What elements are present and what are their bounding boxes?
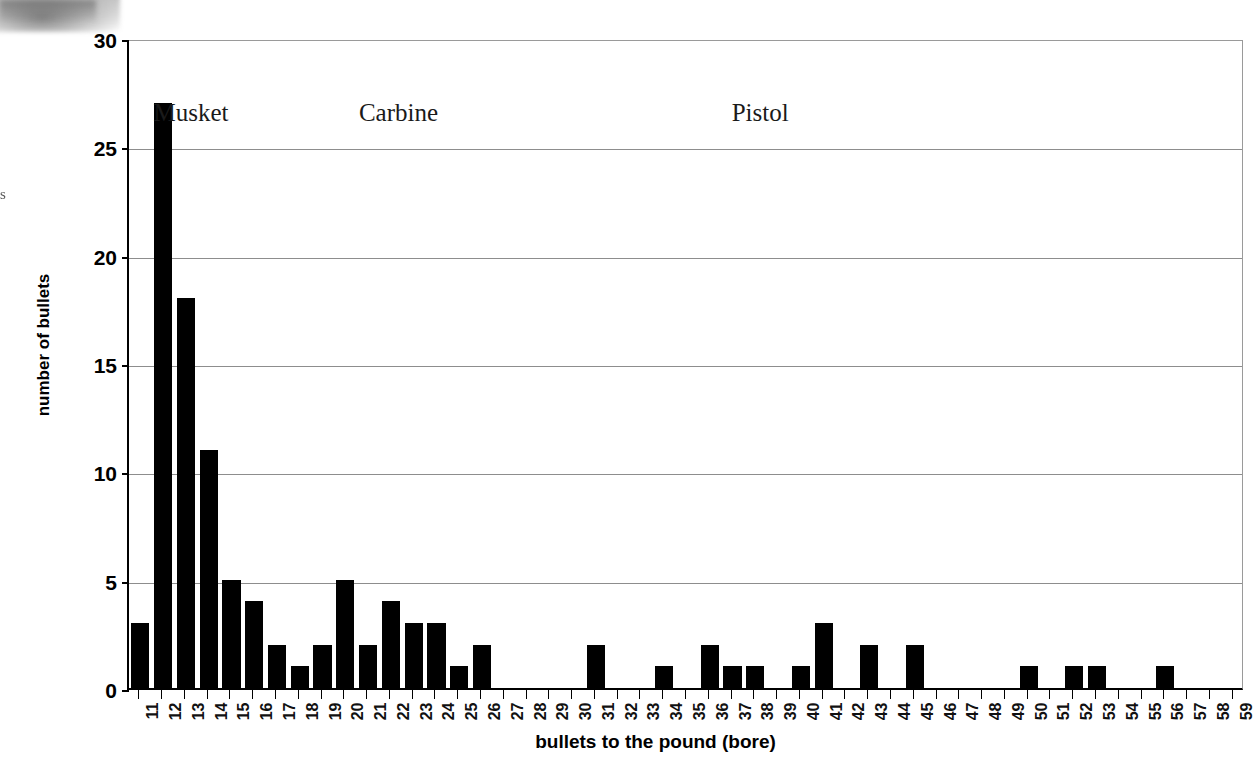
bar [245, 601, 263, 688]
x-axis-title-text: bullets to the pound (bore) [535, 731, 776, 753]
bar [291, 666, 309, 688]
x-tick-mark [229, 690, 230, 699]
x-tick-mark [685, 690, 686, 699]
y-axis-title: number of bullets [34, 274, 54, 417]
x-tick-label: 23 [418, 703, 436, 720]
x-tick-label: 55 [1147, 703, 1165, 720]
x-tick-label: 14 [213, 703, 231, 720]
bar [450, 666, 468, 688]
x-tick-label: 57 [1192, 703, 1210, 720]
x-tick-mark [389, 690, 390, 699]
x-tick-label: 38 [759, 703, 777, 720]
x-tick-label: 41 [828, 703, 846, 720]
bars-container [129, 41, 1242, 688]
bar [131, 623, 149, 688]
bar [1088, 666, 1106, 688]
x-tick-mark [434, 690, 435, 699]
x-tick-label: 28 [532, 703, 550, 720]
x-tick-mark [526, 690, 527, 699]
x-tick-label: 27 [509, 703, 527, 720]
x-tick-label: 58 [1215, 703, 1233, 720]
x-tick-label: 24 [440, 703, 458, 720]
x-tick-label: 32 [623, 703, 641, 720]
x-tick-mark [1004, 690, 1005, 699]
x-tick-mark [298, 690, 299, 699]
x-tick-mark [571, 690, 572, 699]
bar [701, 645, 719, 688]
x-tick-label: 29 [554, 703, 572, 720]
x-tick-mark [457, 690, 458, 699]
bar [200, 450, 218, 688]
x-tick-label: 59 [1238, 703, 1255, 720]
y-tick-label: 25 [94, 137, 117, 161]
x-tick-label: 22 [395, 703, 413, 720]
x-tick-mark [1232, 690, 1233, 699]
x-tick-label: 46 [942, 703, 960, 720]
x-tick-mark [1141, 690, 1142, 699]
x-tick-label: 13 [190, 703, 208, 720]
x-tick-mark [890, 690, 891, 699]
x-tick-mark [981, 690, 982, 699]
x-tick-label: 40 [805, 703, 823, 720]
x-tick-label: 25 [463, 703, 481, 720]
x-tick-label: 18 [304, 703, 322, 720]
category-annotation: Pistol [732, 99, 789, 127]
bar [587, 645, 605, 688]
x-tick-label: 34 [668, 703, 686, 720]
bar [860, 645, 878, 688]
category-annotation: Musket [154, 99, 229, 127]
bar [359, 645, 377, 688]
x-tick-mark [617, 690, 618, 699]
bar [1156, 666, 1174, 688]
x-axis-title: bullets to the pound (bore) [0, 731, 1255, 753]
x-tick-mark [1118, 690, 1119, 699]
y-tick-mark [122, 365, 129, 367]
x-tick-label: 16 [258, 703, 276, 720]
x-tick-label: 44 [896, 703, 914, 720]
x-tick-label: 17 [281, 703, 299, 720]
x-tick-mark [799, 690, 800, 699]
bar [222, 580, 240, 688]
x-tick-mark [822, 690, 823, 699]
bar [1065, 666, 1083, 688]
x-tick-mark [480, 690, 481, 699]
x-tick-label: 54 [1124, 703, 1142, 720]
x-tick-label: 12 [167, 703, 185, 720]
x-tick-mark [412, 690, 413, 699]
x-tick-label: 39 [782, 703, 800, 720]
y-tick-label: 0 [105, 679, 117, 703]
x-tick-mark [639, 690, 640, 699]
bar [473, 645, 491, 688]
x-tick-mark [1095, 690, 1096, 699]
x-tick-label: 45 [919, 703, 937, 720]
x-tick-label: 26 [486, 703, 504, 720]
y-tick-label: 15 [94, 354, 117, 378]
x-tick-label: 20 [349, 703, 367, 720]
x-tick-mark [1209, 690, 1210, 699]
x-tick-label: 43 [873, 703, 891, 720]
y-tick-mark [122, 40, 129, 42]
y-tick-label: 20 [94, 246, 117, 270]
x-tick-mark [936, 690, 937, 699]
x-tick-mark [184, 690, 185, 699]
bar [313, 645, 331, 688]
y-tick-label: 30 [94, 29, 117, 53]
x-tick-mark [844, 690, 845, 699]
x-tick-mark [662, 690, 663, 699]
bar [382, 601, 400, 688]
x-tick-mark [1072, 690, 1073, 699]
x-tick-mark [161, 690, 162, 699]
x-tick-mark [753, 690, 754, 699]
bar [177, 298, 195, 688]
x-tick-mark [548, 690, 549, 699]
bar [1020, 666, 1038, 688]
x-tick-mark [138, 690, 139, 699]
x-tick-mark [594, 690, 595, 699]
x-tick-label: 53 [1101, 703, 1119, 720]
x-tick-label: 37 [737, 703, 755, 720]
x-tick-mark [913, 690, 914, 699]
bar [154, 103, 172, 688]
x-tick-mark [1163, 690, 1164, 699]
x-tick-label: 48 [987, 703, 1005, 720]
bar [655, 666, 673, 688]
